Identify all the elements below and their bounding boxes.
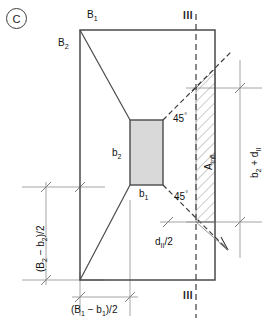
figure-canvas xyxy=(0,0,268,327)
label-left-dim-close: )/2 xyxy=(35,226,46,238)
label-angle-upper: 45° xyxy=(173,112,187,124)
label-right-dim-b-sub: 2 xyxy=(255,169,262,173)
label-B2-base: B xyxy=(58,37,65,48)
punching-shear-diagram: C III III B1 B2 b2 b1 45° 45° Ainfl. b2 … xyxy=(0,0,268,327)
label-bottom-dim-close: )/2 xyxy=(106,304,118,315)
label-b1: b1 xyxy=(139,189,148,199)
section-mark-top: III xyxy=(183,10,193,21)
label-angle-lower-unit: ° xyxy=(185,190,188,197)
label-bottom-dim-open: (B xyxy=(71,304,81,315)
label-angle-lower: 45° xyxy=(174,190,188,202)
fold-bottom-left xyxy=(80,185,130,280)
panel-tag-c: C xyxy=(6,8,27,29)
label-angle-upper-unit: ° xyxy=(184,112,187,119)
label-left-dim-sub2: 2 xyxy=(41,237,48,241)
label-area-influence-sub: infl. xyxy=(209,152,216,163)
label-bottom-dimension: (B1 − b1)/2 xyxy=(71,305,117,315)
label-left-dim-open: (B xyxy=(35,262,46,272)
cone-arrowhead xyxy=(196,222,228,250)
section-mark-bottom: III xyxy=(183,290,193,301)
label-b2-sub: 2 xyxy=(118,153,122,160)
label-bottom-dim-minus: − b xyxy=(85,304,102,315)
label-right-dim-b: b xyxy=(249,172,260,178)
label-right-dimension: b2 + dII xyxy=(250,148,260,178)
column-rectangle xyxy=(130,120,163,185)
label-d-half: dII/2 xyxy=(155,237,173,247)
label-B2-sub: 2 xyxy=(65,43,69,50)
label-right-dim-plus: + d xyxy=(249,152,260,169)
influence-area-hatch xyxy=(190,60,222,230)
label-left-dim-minus: − b xyxy=(35,241,46,258)
fold-top-left xyxy=(80,30,130,120)
label-angle-lower-value: 45 xyxy=(174,191,185,202)
label-area-influence: Ainfl. xyxy=(204,152,214,170)
label-b1-sub: 1 xyxy=(145,194,149,201)
label-B1-base: B xyxy=(87,9,94,20)
label-right-dim-d-sub: II xyxy=(255,148,262,152)
label-left-dim-sub1: 2 xyxy=(41,258,48,262)
label-B2: B2 xyxy=(58,38,69,48)
label-B1-sub: 1 xyxy=(94,15,98,22)
label-left-dimension: (B2 − b2)/2 xyxy=(36,226,46,272)
label-area-influence-base: A xyxy=(203,163,214,170)
label-angle-upper-value: 45 xyxy=(173,113,184,124)
label-d-half-tail: /2 xyxy=(164,236,172,247)
label-B1: B1 xyxy=(87,10,98,20)
label-b2: b2 xyxy=(112,148,121,158)
